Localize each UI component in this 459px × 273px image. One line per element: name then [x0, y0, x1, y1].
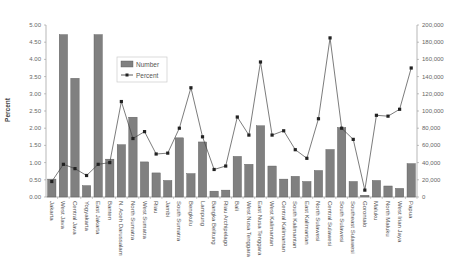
y2-tick-label: 180,000 [422, 39, 444, 45]
x-tick-label: West Sumatra [142, 201, 148, 240]
line-marker [317, 117, 320, 120]
x-tick-label: North Maluku [385, 201, 391, 237]
x-tick-label: East Kalimantan [304, 201, 310, 245]
x-tick-label: South Sumatra [176, 201, 182, 242]
y-tick-label: 3.00 [29, 91, 41, 97]
line-marker [131, 137, 134, 140]
bar [314, 171, 322, 197]
line-marker [270, 133, 273, 136]
bar [384, 186, 392, 197]
bar [175, 138, 183, 197]
x-tick-label: West Java [60, 201, 66, 230]
line-marker [120, 100, 123, 103]
line-marker [108, 161, 111, 164]
y-tick-label: 2.00 [29, 125, 41, 131]
x-tick-label: West Irian Jaya [397, 201, 403, 243]
bar [256, 126, 264, 197]
x-tick-label: North Sulawesi [315, 201, 321, 241]
bar [279, 179, 287, 197]
x-tick-label: East Nusa Tenggara [257, 201, 263, 256]
y2-tick-label: 100,000 [422, 108, 444, 114]
line-marker [375, 114, 378, 117]
x-tick-label: Southeast Sulawesi [350, 201, 356, 254]
line-marker [213, 168, 216, 171]
x-tick-label: West Nusa Tenggara [246, 201, 252, 257]
x-tick-label: Papua [408, 201, 414, 219]
line-marker [363, 189, 366, 192]
x-tick-label: Bali [234, 201, 240, 211]
line-marker [143, 130, 146, 133]
line-marker [97, 163, 100, 166]
x-tick-label: Banten [107, 201, 113, 220]
bar-series-number [48, 35, 417, 199]
y2-tick-label: 40,000 [422, 160, 441, 166]
y-tick-label: 4.00 [29, 56, 41, 62]
bar [222, 190, 230, 197]
bar [268, 166, 276, 197]
line-marker [166, 152, 169, 155]
bar [245, 164, 253, 197]
bar [59, 35, 67, 197]
bar [187, 174, 195, 197]
line-marker [189, 86, 192, 89]
line-marker [85, 174, 88, 177]
bar [337, 128, 345, 197]
x-tick-label: Bengkulu [188, 201, 194, 226]
y2-tick-label: 200,000 [422, 22, 444, 28]
x-tick-label: Yogyakarta [84, 201, 90, 231]
y2-tick-label: 80,000 [422, 125, 441, 131]
line-marker [398, 108, 401, 111]
y-tick-label: 3.50 [29, 74, 41, 80]
y-tick-label: 2.50 [29, 108, 41, 114]
bar [326, 150, 334, 197]
legend-swatch-number [121, 61, 133, 67]
x-tick-label: Bangka Belitung [211, 201, 217, 245]
y-tick-label: 0.50 [29, 177, 41, 183]
bar [210, 191, 218, 197]
x-tick-label: Jambi [165, 201, 171, 217]
y-tick-label: 0.00 [29, 194, 41, 200]
line-marker [328, 36, 331, 39]
bar [303, 182, 311, 197]
legend-marker-icon [126, 74, 129, 77]
line-marker [282, 129, 285, 132]
x-tick-label: South Kalimantan [292, 201, 298, 248]
y2-tick-label: 160,000 [422, 56, 444, 62]
line-marker [386, 115, 389, 118]
x-tick-label: South Sulawesi [339, 201, 345, 242]
line-marker [201, 135, 204, 138]
bar [117, 145, 125, 197]
line-marker [224, 164, 227, 167]
bar [198, 142, 206, 197]
line-marker [236, 115, 239, 118]
x-tick-label: Lampung [200, 201, 206, 226]
line-marker [352, 138, 355, 141]
bar [82, 186, 90, 197]
y2-tick-label: 0 [422, 194, 426, 200]
y2-tick-label: 140,000 [422, 74, 444, 80]
line-marker [410, 66, 413, 69]
x-tick-label: Central Kalimantan [281, 201, 287, 252]
bar [349, 182, 357, 197]
x-tick-label: Maluku [373, 201, 379, 220]
x-tick-label: Riau [153, 201, 159, 213]
x-tick-label: East Jakarta [95, 201, 101, 235]
y-axis-title: Percent [4, 97, 11, 122]
bar [71, 78, 79, 197]
line-marker [178, 127, 181, 130]
x-tick-label: Central Sulawesi [327, 201, 333, 246]
left-axis: 0.000.501.001.502.002.503.003.504.004.50… [29, 22, 417, 200]
y-tick-label: 1.50 [29, 142, 41, 148]
x-axis-labels: JakartaWest JavaCentral JavaYogyakartaEa… [49, 201, 414, 257]
chart: 0.000.501.001.502.002.503.003.504.004.50… [0, 0, 459, 273]
x-tick-label: West Kalimantan [269, 201, 275, 246]
x-tick-label: Jakarta [49, 201, 55, 221]
line-marker [247, 133, 250, 136]
y-tick-label: 1.00 [29, 160, 41, 166]
y-tick-label: 5.00 [29, 22, 41, 28]
line-marker [155, 152, 158, 155]
y2-tick-label: 60,000 [422, 142, 441, 148]
legend: Number Percent [117, 57, 167, 82]
line-marker [259, 60, 262, 63]
right-axis: 020,00040,00060,00080,000100,000120,0001… [417, 22, 444, 200]
